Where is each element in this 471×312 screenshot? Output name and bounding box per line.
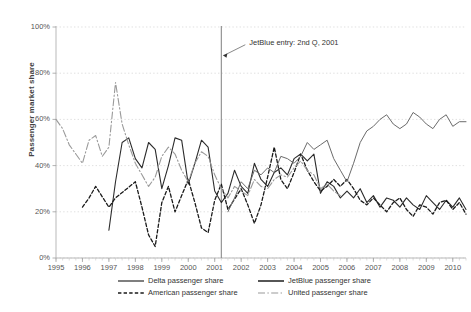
chart-figure: Passenger market share 0%20%40%60%80%100…	[0, 0, 471, 312]
legend-label-united: United passenger share	[288, 288, 368, 297]
series-line-american	[82, 147, 466, 246]
y-tick-label: 40%	[16, 161, 50, 170]
series-line-jetblue	[228, 112, 466, 211]
series-line-delta	[109, 138, 466, 230]
legend-item-united: United passenger share	[258, 288, 371, 297]
legend-swatch-united	[258, 289, 284, 297]
legend-label-american: American passenger share	[148, 288, 238, 297]
chart-legend-left: Delta passenger share American passenger…	[118, 276, 238, 300]
legend-swatch-jetblue	[258, 277, 284, 285]
series-line-united	[56, 82, 340, 198]
y-tick-label: 20%	[16, 207, 50, 216]
y-tick-label: 60%	[16, 114, 50, 123]
legend-swatch-american	[118, 289, 144, 297]
legend-label-delta: Delta passenger share	[148, 276, 223, 285]
legend-item-american: American passenger share	[118, 288, 238, 297]
legend-swatch-delta	[118, 277, 144, 285]
legend-item-delta: Delta passenger share	[118, 276, 238, 285]
y-tick-label: 80%	[16, 68, 50, 77]
x-tick-label: 2010	[436, 263, 470, 272]
chart-legend-right: JetBlue passenger share United passenger…	[258, 276, 371, 300]
jetblue-entry-annotation: JetBlue entry: 2nd Q, 2001	[249, 38, 338, 47]
y-tick-label: 100%	[16, 22, 50, 31]
y-tick-label: 0%	[16, 253, 50, 262]
legend-label-jetblue: JetBlue passenger share	[288, 276, 371, 285]
legend-item-jetblue: JetBlue passenger share	[258, 276, 371, 285]
